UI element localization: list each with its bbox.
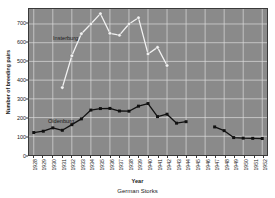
x-tick-label: 1935 [99,159,105,171]
data-point [99,107,102,110]
x-tick-label: 1948 [224,159,230,171]
x-tick-label: 1930 [51,159,57,171]
x-tick-mark [71,156,72,158]
data-point [51,126,54,129]
x-tick-label: 1951 [253,159,259,171]
x-tick-label: 1952 [262,159,268,171]
y-tick-label: 700 [17,20,26,26]
data-point [137,105,140,108]
data-point [261,137,264,140]
x-tick-mark [100,156,101,158]
data-point [118,33,122,37]
x-tick-mark [186,156,187,158]
x-tick-label: 1949 [233,159,239,171]
data-point [147,102,150,105]
x-tick-label: 1943 [176,159,182,171]
data-point [80,117,83,120]
x-tick-mark [148,156,149,158]
x-tick-mark [234,156,235,158]
x-tick-mark [225,156,226,158]
y-tick-label: 200 [17,115,26,121]
x-tick-label: 1939 [137,159,143,171]
chart-canvas [29,9,267,155]
x-tick-mark [90,156,91,158]
x-tick-label: 1942 [166,159,172,171]
data-point [108,32,112,36]
x-tick-mark [158,156,159,158]
data-point [118,110,121,113]
series-insterburg [61,12,169,89]
x-tick-mark [42,156,43,158]
chart-figure: Number of breeding pairs 010020030040050… [0,0,275,198]
data-point [108,107,111,110]
x-tick-label: 1937 [118,159,124,171]
y-axis-title: Number of breeding pairs [5,50,11,114]
data-point [156,115,159,118]
x-tick-label: 1928 [32,159,38,171]
x-axis-title: Year [132,178,144,184]
x-tick-label: 1929 [41,159,47,171]
x-tick-label: 1933 [80,159,86,171]
data-point [89,109,92,112]
x-tick-mark [263,156,264,158]
y-tick-label: 500 [17,58,26,64]
x-tick-mark [110,156,111,158]
data-point [185,120,188,123]
series-label-insterburg: Insterburg [53,35,78,41]
data-point [70,54,74,58]
y-tick-label: 100 [17,134,26,140]
x-tick-mark [62,156,63,158]
x-tick-label: 1934 [89,159,95,171]
data-point [61,129,64,132]
plot-wrapper: Number of breeding pairs 010020030040050… [28,8,268,156]
data-point [213,125,216,128]
y-tick-label: 400 [17,77,26,83]
data-point [175,122,178,125]
x-tick-mark [167,156,168,158]
x-tick-mark [254,156,255,158]
x-tick-mark [33,156,34,158]
series-line [62,14,167,88]
x-tick-mark [52,156,53,158]
x-tick-mark [81,156,82,158]
data-point [42,130,45,133]
plot-area [28,8,268,156]
data-point [89,22,93,26]
data-point [61,86,65,90]
series-label-oldenburg: Oldenburg [48,118,74,124]
data-point [99,12,103,16]
x-tick-mark [138,156,139,158]
x-tick-label: 1940 [147,159,153,171]
x-tick-mark [129,156,130,158]
x-tick-mark [215,156,216,158]
data-point [166,113,169,116]
chart-caption: German Storks [117,188,157,194]
x-tick-mark [177,156,178,158]
data-point [156,46,160,50]
x-tick-label: 1932 [70,159,76,171]
data-point [232,136,235,139]
x-tick-label: 1944 [185,159,191,171]
data-point [32,131,35,134]
data-point [242,137,245,140]
y-tick-label: 300 [17,96,26,102]
data-point [80,32,84,36]
x-tick-label: 1947 [214,159,220,171]
x-tick-mark [196,156,197,158]
x-tick-mark [119,156,120,158]
x-tick-label: 1938 [128,159,134,171]
data-point [127,22,131,26]
gridlines [29,9,267,155]
data-point [165,64,169,68]
x-tick-label: 1950 [243,159,249,171]
x-tick-mark [206,156,207,158]
y-tick-label: 600 [17,39,26,45]
x-tick-label: 1936 [109,159,115,171]
x-tick-label: 1941 [157,159,163,171]
x-tick-label: 1946 [205,159,211,171]
data-point [127,110,130,113]
data-point [146,52,150,56]
series-line [215,127,263,139]
x-tick-label: 1945 [195,159,201,171]
x-tick-label: 1931 [61,159,67,171]
